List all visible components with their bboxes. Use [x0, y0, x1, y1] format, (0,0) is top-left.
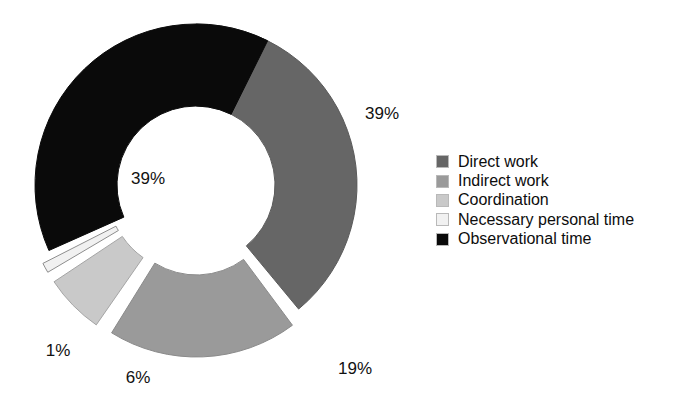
slice-value-label: 19% [338, 359, 372, 378]
legend-label-direct-work: Direct work [458, 154, 538, 170]
donut-slices [35, 24, 357, 357]
legend-item-indirect-work: Indirect work [436, 171, 676, 190]
slice-value-label: 39% [365, 104, 399, 123]
legend-swatch-coordination [436, 194, 449, 207]
slice-value-label: 1% [46, 341, 71, 360]
legend-item-coordination: Coordination [436, 191, 676, 210]
legend-item-observational-time: Observational time [436, 230, 676, 249]
slice-value-label: 6% [126, 368, 151, 387]
legend-label-coordination: Coordination [458, 192, 549, 208]
legend-label-indirect-work: Indirect work [458, 173, 549, 189]
donut-slice[interactable] [112, 259, 293, 357]
chart-page: 39%19%6%1%39% Direct work Indirect work … [0, 0, 695, 417]
legend-label-observational-time: Observational time [458, 231, 591, 247]
donut-slice[interactable] [35, 24, 268, 250]
chart-legend: Direct work Indirect work Coordination N… [436, 152, 676, 249]
legend-swatch-necessary-personal-time [436, 213, 449, 226]
legend-label-necessary-personal-time: Necessary personal time [458, 212, 634, 228]
legend-swatch-observational-time [436, 233, 449, 246]
legend-swatch-indirect-work [436, 175, 449, 188]
legend-swatch-direct-work [436, 155, 449, 168]
slice-value-label: 39% [131, 169, 165, 188]
legend-item-direct-work: Direct work [436, 152, 676, 171]
legend-item-necessary-personal-time: Necessary personal time [436, 210, 676, 229]
